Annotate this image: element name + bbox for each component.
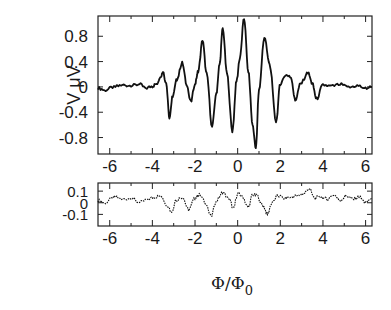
x-tick-label: -2 [187, 157, 202, 176]
x-tick-label: 4 [318, 157, 327, 176]
x-tick-label: 6 [361, 229, 370, 248]
x-tick-label: 0 [233, 157, 242, 176]
x-tick-label: 6 [361, 157, 370, 176]
x-tick-label: -6 [102, 229, 117, 248]
x-tick-label: 0 [233, 229, 242, 248]
x-tick-label: 2 [276, 157, 285, 176]
x-tick-label: -2 [187, 229, 202, 248]
x-tick-label: 2 [276, 229, 285, 248]
chart: -6-4-202460.80.40-0.4-0.8 -6-4-202460.10… [0, 0, 391, 310]
y-tick-label: -0.1 [62, 206, 88, 223]
y-tick-label: 0.8 [64, 27, 88, 46]
bottom-panel: -6-4-202460.10-0.1 [62, 183, 372, 248]
x-tick-label: -4 [145, 157, 160, 176]
top-panel: -6-4-202460.80.40-0.4-0.8 [59, 16, 372, 176]
x-tick-label: -6 [102, 157, 117, 176]
x-axis-label: Φ/Φ0 [211, 273, 253, 298]
data-series-line [98, 19, 372, 148]
y-axis-label: V μV [64, 65, 84, 104]
y-tick-label: -0.4 [59, 103, 88, 122]
x-tick-label: -4 [145, 229, 160, 248]
y-tick-label: -0.8 [59, 129, 88, 148]
data-series-line [98, 189, 372, 217]
x-tick-label: 4 [318, 229, 327, 248]
